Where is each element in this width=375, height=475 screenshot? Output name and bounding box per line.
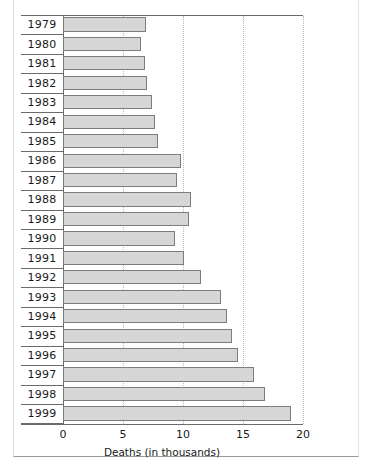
bar-1989 bbox=[63, 212, 189, 226]
year-label: 1984 bbox=[21, 112, 63, 131]
chart-page: 1979198019811982198319841985198619871988… bbox=[0, 0, 375, 475]
year-label: 1993 bbox=[21, 287, 63, 306]
year-label: 1995 bbox=[21, 326, 63, 345]
table-row: 1999 bbox=[21, 404, 303, 423]
year-label: 1983 bbox=[21, 93, 63, 112]
year-label: 1988 bbox=[21, 190, 63, 209]
bar-1988 bbox=[63, 192, 191, 206]
gridline-20 bbox=[303, 16, 304, 424]
table-row: 1981 bbox=[21, 54, 303, 73]
x-tick-label-5: 5 bbox=[108, 428, 138, 441]
year-label: 1998 bbox=[21, 385, 63, 404]
bar-1982 bbox=[63, 76, 147, 90]
x-tick-label-0: 0 bbox=[48, 428, 78, 441]
year-label: 1994 bbox=[21, 307, 63, 326]
bar-1995 bbox=[63, 329, 232, 343]
year-label: 1992 bbox=[21, 268, 63, 287]
bar-1996 bbox=[63, 348, 238, 362]
year-label: 1991 bbox=[21, 248, 63, 267]
bar-1979 bbox=[63, 17, 146, 31]
table-row: 1984 bbox=[21, 112, 303, 131]
table-row: 1994 bbox=[21, 307, 303, 326]
bar-1991 bbox=[63, 251, 184, 265]
table-row: 1992 bbox=[21, 268, 303, 287]
table-row: 1985 bbox=[21, 132, 303, 151]
year-label: 1981 bbox=[21, 54, 63, 73]
x-axis-label: Deaths (in thousands) bbox=[21, 446, 303, 458]
table-row: 1990 bbox=[21, 229, 303, 248]
year-label: 1997 bbox=[21, 365, 63, 384]
year-label: 1980 bbox=[21, 34, 63, 53]
bar-1983 bbox=[63, 95, 152, 109]
table-row: 1997 bbox=[21, 365, 303, 384]
table-row: 1996 bbox=[21, 346, 303, 365]
bar-1997 bbox=[63, 367, 254, 381]
table-row: 1986 bbox=[21, 151, 303, 170]
bar-1998 bbox=[63, 387, 265, 401]
bar-1986 bbox=[63, 154, 181, 168]
bar-1994 bbox=[63, 309, 227, 323]
table-row: 1980 bbox=[21, 34, 303, 53]
table-row: 1995 bbox=[21, 326, 303, 345]
table-row: 1987 bbox=[21, 171, 303, 190]
year-label: 1999 bbox=[21, 404, 63, 423]
bar-1985 bbox=[63, 134, 158, 148]
x-tick-label-20: 20 bbox=[288, 428, 318, 441]
row-separator bbox=[21, 423, 63, 424]
table-row: 1989 bbox=[21, 210, 303, 229]
year-label: 1987 bbox=[21, 171, 63, 190]
bar-1987 bbox=[63, 173, 177, 187]
bar-1980 bbox=[63, 37, 141, 51]
bar-1999 bbox=[63, 406, 291, 420]
table-row: 1982 bbox=[21, 73, 303, 92]
year-label: 1982 bbox=[21, 73, 63, 92]
bar-1992 bbox=[63, 270, 201, 284]
bar-1981 bbox=[63, 56, 145, 70]
table-row: 1993 bbox=[21, 287, 303, 306]
bar-1990 bbox=[63, 231, 175, 245]
year-label: 1996 bbox=[21, 346, 63, 365]
table-row: 1983 bbox=[21, 93, 303, 112]
bar-1984 bbox=[63, 115, 155, 129]
year-label: 1990 bbox=[21, 229, 63, 248]
x-tick-label-15: 15 bbox=[228, 428, 258, 441]
table-row: 1988 bbox=[21, 190, 303, 209]
year-label: 1989 bbox=[21, 210, 63, 229]
table-row: 1979 bbox=[21, 15, 303, 34]
value-axis-line bbox=[21, 424, 303, 425]
bar-1993 bbox=[63, 290, 221, 304]
year-label: 1979 bbox=[21, 15, 63, 34]
year-label: 1985 bbox=[21, 132, 63, 151]
year-label: 1986 bbox=[21, 151, 63, 170]
table-row: 1998 bbox=[21, 385, 303, 404]
table-row: 1991 bbox=[21, 248, 303, 267]
x-tick-label-10: 10 bbox=[168, 428, 198, 441]
